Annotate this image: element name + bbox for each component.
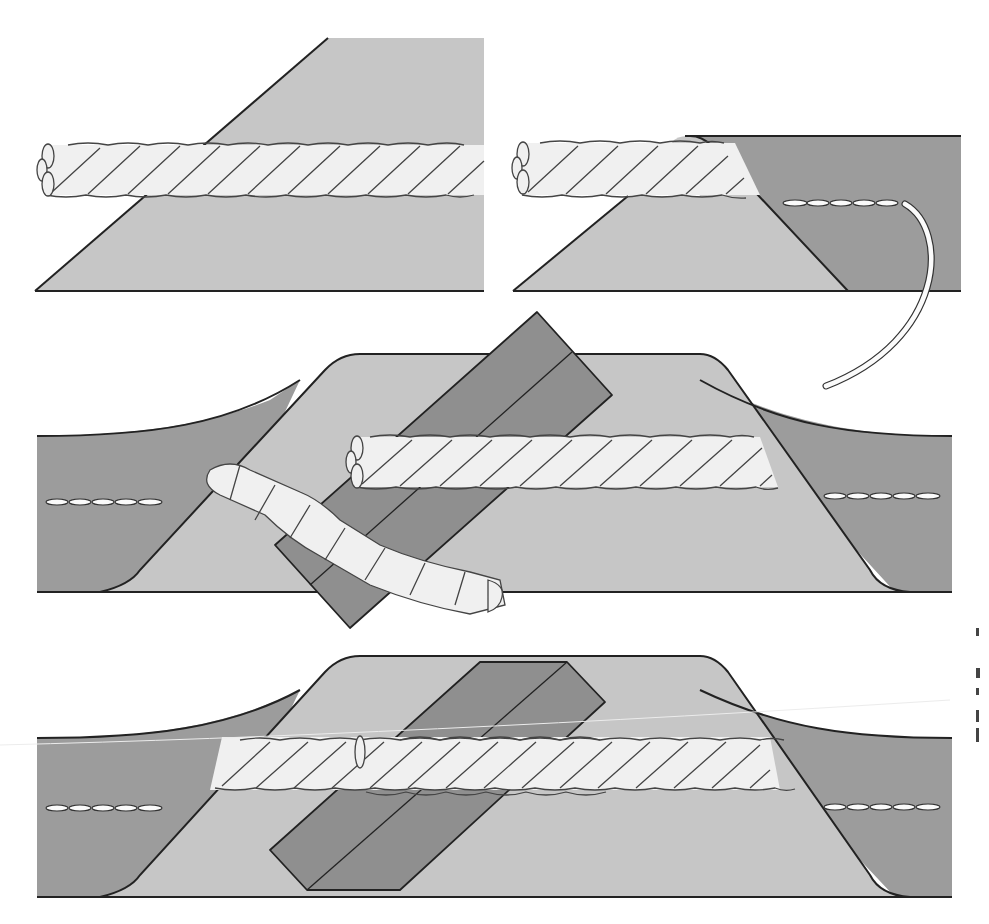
stitch-line	[783, 200, 898, 206]
stitch-line-left	[46, 499, 162, 505]
panel-step-4	[37, 656, 952, 897]
cord-right	[346, 435, 778, 489]
piping-instruction-diagram	[0, 0, 989, 924]
cord	[37, 143, 484, 197]
stitch-line-right	[824, 804, 940, 810]
cord-joined	[210, 736, 795, 795]
panel-step-3	[37, 312, 952, 628]
right-margin-text	[976, 628, 989, 758]
panel-step-1	[35, 38, 484, 291]
diagram-canvas	[0, 0, 989, 924]
cord	[512, 141, 760, 198]
panel-step-2	[512, 136, 961, 386]
stitch-line-left	[46, 805, 162, 811]
stitch-line-right	[824, 493, 940, 499]
